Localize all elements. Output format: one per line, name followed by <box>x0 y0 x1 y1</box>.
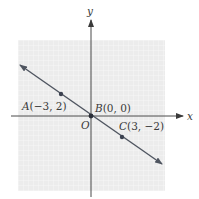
point-c-label: C(3, −2) <box>119 121 164 132</box>
coordinate-plane-figure: y x O A(−3, 2) B(0, 0) C(3, −2) <box>0 0 199 199</box>
x-axis-label: x <box>187 111 193 122</box>
y-axis-label: y <box>87 6 93 17</box>
point-a <box>59 92 63 96</box>
point-a-label: A(−3, 2) <box>22 101 67 112</box>
point-b <box>89 114 94 119</box>
point-b-label: B(0, 0) <box>95 103 131 114</box>
origin-label: O <box>81 120 90 131</box>
point-c <box>120 135 124 139</box>
